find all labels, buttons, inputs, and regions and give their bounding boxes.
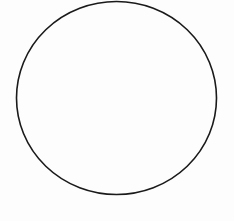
- diagram-canvas: [0, 0, 234, 221]
- circle-diagram: [0, 0, 234, 221]
- circle-outline: [17, 2, 217, 195]
